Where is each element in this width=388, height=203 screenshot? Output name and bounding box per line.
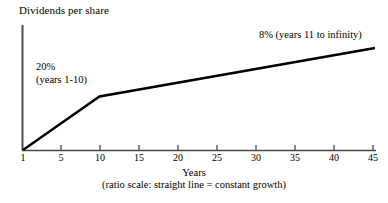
annotation-phase-one: 20% (years 1-10)	[36, 61, 87, 86]
annotation-phase-two: 8% (years 11 to infinity)	[259, 29, 362, 42]
dividend-growth-chart: Dividends per share 20% (years 1-10) 8% …	[0, 0, 388, 203]
x-tick-label: 25	[205, 152, 229, 163]
x-tick-label: 10	[88, 152, 112, 163]
x-axis-note: (ratio scale: straight line = constant g…	[0, 178, 388, 191]
x-tick-label: 30	[244, 152, 268, 163]
x-tick-label: 20	[166, 152, 190, 163]
annotation-phase-one-range: (years 1-10)	[36, 74, 87, 87]
annotation-phase-one-rate: 20%	[36, 61, 55, 72]
x-tick-label: 1	[11, 152, 35, 163]
x-axis-ticks	[61, 145, 373, 150]
x-tick-label: 5	[49, 152, 73, 163]
x-tick-label: 15	[127, 152, 151, 163]
x-tick-label: 35	[283, 152, 307, 163]
x-tick-label: 45	[361, 152, 385, 163]
x-tick-label: 40	[322, 152, 346, 163]
